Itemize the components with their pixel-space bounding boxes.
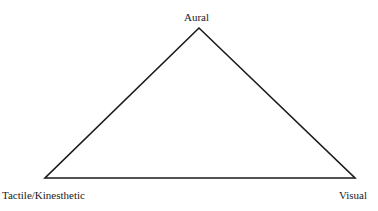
vertex-label-visual: Visual <box>339 190 367 201</box>
vertex-label-tactile-kinesthetic: Tactile/Kinesthetic <box>2 190 85 201</box>
triangle-diagram <box>0 0 378 211</box>
vertex-label-aural: Aural <box>184 12 209 23</box>
triangle-shape <box>45 28 355 178</box>
